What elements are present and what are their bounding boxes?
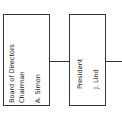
connector-president-right (106, 61, 122, 62)
president-node: President J. Lind (69, 14, 106, 106)
board-of-directors-node: Board of Directors Chairman A. Simon (3, 14, 50, 106)
board-title: Board of Directors (8, 44, 16, 103)
president-title: President (76, 59, 84, 89)
board-role: Chairman (18, 72, 26, 103)
connector-board-president (50, 61, 69, 62)
president-name: J. Lind (92, 69, 100, 89)
board-chairman-name: A. Simon (34, 74, 42, 103)
